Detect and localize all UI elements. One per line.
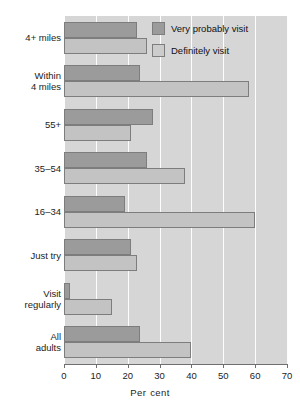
category-label-line: adults xyxy=(2,342,61,353)
category-label-line: 16–34 xyxy=(2,206,61,217)
category-label: 55+ xyxy=(2,119,64,130)
legend-item-very-probably-visit: Very probably visit xyxy=(152,19,248,38)
gridline-40 xyxy=(191,16,192,364)
bar xyxy=(64,283,70,299)
category-label-line: regularly xyxy=(2,299,61,310)
bar xyxy=(64,255,137,271)
legend-swatch-icon xyxy=(152,44,165,57)
x-tick-30 xyxy=(160,364,161,368)
legend-item-definitely-visit: Definitely visit xyxy=(152,41,248,60)
x-tick-label: 30 xyxy=(154,370,165,381)
x-axis-title-word-1: Per xyxy=(130,387,146,398)
category-label: Alladults xyxy=(2,331,64,353)
category-label-line: 55+ xyxy=(2,119,61,130)
x-tick-70 xyxy=(287,364,288,368)
gridline-50 xyxy=(223,16,224,364)
bar xyxy=(64,81,249,97)
bar xyxy=(64,168,185,184)
gridline-70 xyxy=(287,16,288,364)
category-label: Visitregularly xyxy=(2,288,64,310)
horizontal-bar-chart: 4+ milesWithin4 miles55+35–5416–34Just t… xyxy=(0,0,300,413)
x-tick-10 xyxy=(96,364,97,368)
bar xyxy=(64,326,140,342)
category-label: Within4 miles xyxy=(2,70,64,92)
legend-label: Very probably visit xyxy=(171,23,248,34)
bar xyxy=(64,196,125,212)
x-tick-label: 0 xyxy=(61,370,66,381)
x-tick-label: 70 xyxy=(282,370,293,381)
gridline-60 xyxy=(255,16,256,364)
bar xyxy=(64,299,112,315)
category-label-line: 4 miles xyxy=(2,81,61,92)
x-tick-0 xyxy=(64,364,65,368)
plot-area xyxy=(64,16,287,364)
gridline-30 xyxy=(160,16,161,364)
legend-swatch-icon xyxy=(152,22,165,35)
x-tick-20 xyxy=(128,364,129,368)
bar xyxy=(64,239,131,255)
bar xyxy=(64,22,137,38)
category-label-line: Visit xyxy=(2,288,61,299)
x-tick-50 xyxy=(223,364,224,368)
bar xyxy=(64,152,147,168)
bar xyxy=(64,125,131,141)
x-axis-title-word-2: cent xyxy=(150,387,170,398)
bar xyxy=(64,212,255,228)
category-label-line: All xyxy=(2,331,61,342)
category-label: 35–54 xyxy=(2,163,64,174)
bar xyxy=(64,38,147,54)
x-tick-label: 20 xyxy=(122,370,133,381)
x-tick-label: 60 xyxy=(250,370,261,381)
bar xyxy=(64,109,153,125)
x-axis-line xyxy=(64,364,287,365)
category-label: 4+ miles xyxy=(2,32,64,43)
category-label-line: Within xyxy=(2,70,61,81)
x-tick-60 xyxy=(255,364,256,368)
legend-label: Definitely visit xyxy=(171,45,229,56)
category-label-line: 35–54 xyxy=(2,163,61,174)
x-tick-40 xyxy=(191,364,192,368)
x-tick-label: 50 xyxy=(218,370,229,381)
bar xyxy=(64,342,191,358)
category-label-line: Just try xyxy=(2,250,61,261)
x-tick-label: 10 xyxy=(91,370,102,381)
category-label: Just try xyxy=(2,250,64,261)
category-label: 16–34 xyxy=(2,206,64,217)
x-axis-title: Percent xyxy=(0,387,300,398)
bar xyxy=(64,65,140,81)
x-tick-label: 40 xyxy=(186,370,197,381)
category-label-line: 4+ miles xyxy=(2,32,61,43)
chart-legend: Very probably visit Definitely visit xyxy=(152,19,248,63)
